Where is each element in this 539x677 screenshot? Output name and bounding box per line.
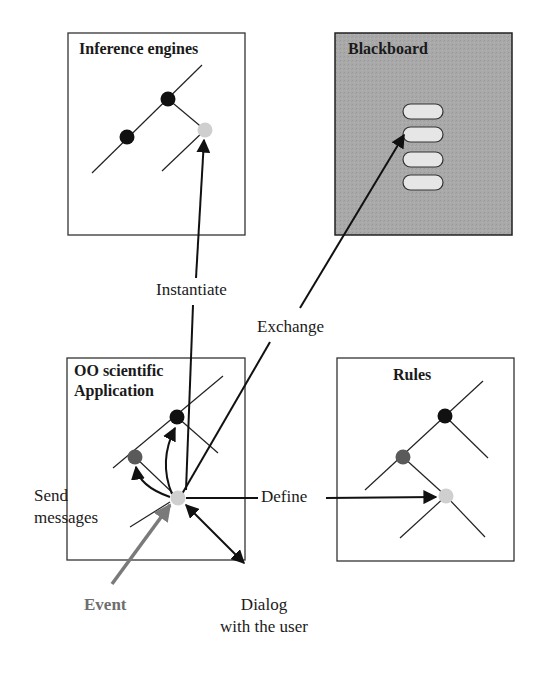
blackboard-title: Blackboard bbox=[348, 40, 428, 58]
node-dark-icon bbox=[128, 450, 143, 465]
define-arrow bbox=[186, 497, 436, 498]
node-black-icon bbox=[161, 92, 176, 107]
node-light-icon bbox=[439, 489, 454, 504]
rules-title: Rules bbox=[393, 366, 431, 384]
oo-application-title-line2: Application bbox=[74, 382, 154, 400]
inference-engines-title: Inference engines bbox=[79, 40, 198, 58]
rules-box bbox=[337, 358, 514, 561]
inference-engines-box bbox=[68, 33, 245, 235]
blackboard-slot bbox=[403, 175, 443, 190]
dialog-label-line1: Dialog bbox=[208, 595, 320, 615]
blackboard-slot bbox=[403, 152, 443, 167]
event-label: Event bbox=[84, 595, 127, 615]
node-black-icon bbox=[120, 130, 135, 145]
blackboard-slot bbox=[403, 104, 443, 119]
node-light-icon bbox=[171, 491, 186, 506]
diagram-canvas bbox=[0, 0, 539, 677]
node-dark-icon bbox=[396, 450, 411, 465]
node-black-icon bbox=[438, 409, 453, 424]
exchange-label: Exchange bbox=[257, 317, 324, 337]
blackboard-slot bbox=[403, 127, 443, 142]
dialog-label-line2: with the user bbox=[208, 617, 320, 637]
instantiate-label: Instantiate bbox=[156, 280, 227, 300]
define-label: Define bbox=[261, 487, 307, 507]
oo-application-title-line1: OO scientific bbox=[74, 362, 163, 380]
node-black-icon bbox=[170, 410, 185, 425]
send-messages-label-line1: Send bbox=[34, 486, 68, 506]
node-light-icon bbox=[198, 123, 213, 138]
send-messages-label-line2: messages bbox=[34, 508, 98, 528]
